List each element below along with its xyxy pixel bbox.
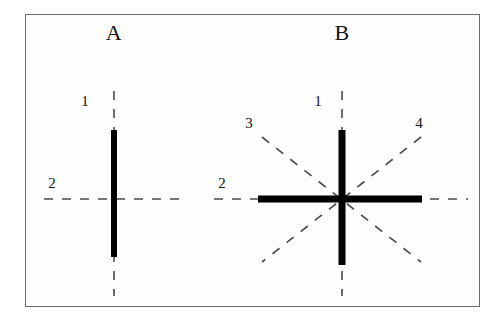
panel-title-b: B (334, 20, 349, 46)
panel-b-axis-label-3: 3 (245, 115, 253, 132)
figure-container: A12B1234 (0, 0, 502, 323)
panel-b-axis-label-4: 4 (415, 115, 423, 132)
panel-a-axis-label-1: 1 (81, 93, 89, 110)
panel-a-axis-label-2: 2 (48, 175, 56, 192)
panel-b-axis-label-2: 2 (218, 175, 226, 192)
panel-b-axis-label-1: 1 (314, 93, 322, 110)
panel-title-a: A (106, 20, 122, 46)
figure-border (25, 14, 480, 307)
